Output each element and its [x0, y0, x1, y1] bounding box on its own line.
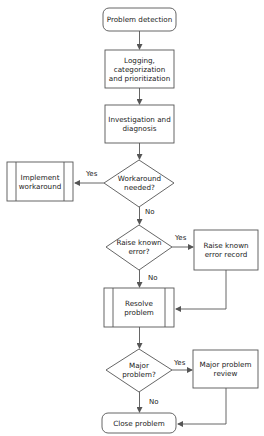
- edge-label-workaround-no: No: [145, 208, 155, 216]
- edge-label-known-error-no: No: [148, 274, 158, 282]
- edge-review-to-close: [178, 388, 226, 424]
- edge-label-major-yes: Yes: [174, 359, 185, 367]
- edge-label-major-no: No: [149, 398, 159, 406]
- edge-label-known-error-yes: Yes: [175, 234, 186, 242]
- label-major-problem-review: Major problem review: [195, 350, 256, 388]
- label-close-problem: Close problem: [102, 413, 176, 433]
- label-resolve-problem: Resolve problem: [114, 288, 164, 327]
- label-known-error-decision: Raise known error?: [114, 234, 164, 260]
- label-workaround-decision: Workaround needed?: [112, 170, 167, 196]
- label-logging: Logging, categorization and prioritizati…: [107, 50, 172, 88]
- label-problem-detection: Problem detection: [103, 8, 176, 31]
- label-investigation: Investigation and diagnosis: [107, 105, 172, 143]
- label-implement-workaround: Implement workaround: [17, 162, 63, 201]
- edge-record-to-resolve: [176, 270, 226, 309]
- edge-label-workaround-yes: Yes: [86, 170, 97, 178]
- label-known-error-record: Raise known error record: [196, 230, 256, 270]
- label-major-problem-decision: Major problem?: [116, 357, 162, 383]
